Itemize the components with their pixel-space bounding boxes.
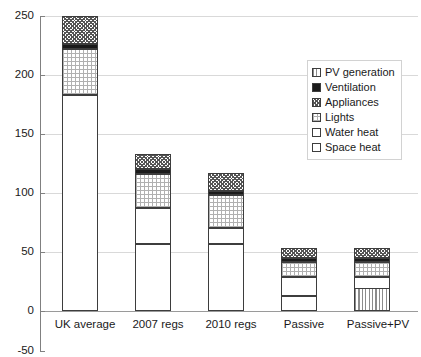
stacked-bar-chart: 250 200 150 100 50 0 -50 bbox=[0, 0, 421, 357]
y-axis-label-100: 100 bbox=[0, 187, 34, 199]
bar-2010-regs[interactable] bbox=[208, 16, 244, 352]
legend-item-water-heat[interactable]: Water heat bbox=[312, 125, 395, 140]
bar-uk-average[interactable] bbox=[62, 16, 98, 352]
legend-item-ventilation[interactable]: Ventilation bbox=[312, 80, 395, 95]
segment-pv-generation[interactable] bbox=[354, 288, 390, 311]
legend-swatch-lights-icon bbox=[312, 113, 321, 122]
segment-appliances[interactable] bbox=[62, 16, 98, 44]
segment-water-heat[interactable] bbox=[281, 277, 317, 296]
legend-label-lights: Lights bbox=[325, 112, 354, 123]
legend-label-pv-generation: PV generation bbox=[325, 67, 395, 78]
legend-swatch-water-heat-icon bbox=[312, 128, 321, 137]
segment-lights[interactable] bbox=[135, 174, 171, 208]
y-axis-label-0: 0 bbox=[0, 305, 34, 317]
segment-water-heat[interactable] bbox=[208, 228, 244, 244]
x-axis-label-passive-pv: Passive+PV bbox=[336, 318, 420, 330]
segment-lights[interactable] bbox=[354, 262, 390, 277]
x-axis-label-2010-regs: 2010 regs bbox=[190, 318, 272, 330]
legend-swatch-appliances-icon bbox=[312, 98, 321, 107]
y-axis-line bbox=[40, 16, 41, 352]
segment-space-heat[interactable] bbox=[135, 244, 171, 311]
segment-lights[interactable] bbox=[208, 195, 244, 228]
y-axis-label-250: 250 bbox=[0, 10, 34, 22]
chart-legend: PV generation Ventilation Appliances Lig… bbox=[307, 60, 402, 160]
segment-appliances[interactable] bbox=[208, 173, 244, 191]
segment-lights[interactable] bbox=[281, 262, 317, 277]
segment-space-heat[interactable] bbox=[281, 296, 317, 311]
legend-item-pv-generation[interactable]: PV generation bbox=[312, 65, 395, 80]
segment-appliances[interactable] bbox=[135, 154, 171, 169]
x-axis-label-uk-average: UK average bbox=[44, 318, 126, 330]
legend-item-lights[interactable]: Lights bbox=[312, 110, 395, 125]
segment-space-heat[interactable] bbox=[208, 244, 244, 311]
legend-swatch-ventilation-icon bbox=[312, 83, 321, 92]
segment-space-heat[interactable] bbox=[62, 95, 98, 311]
bar-2007-regs[interactable] bbox=[135, 16, 171, 352]
legend-item-appliances[interactable]: Appliances bbox=[312, 95, 395, 110]
segment-appliances[interactable] bbox=[354, 248, 390, 258]
legend-label-ventilation: Ventilation bbox=[325, 82, 376, 93]
y-axis-label-150: 150 bbox=[0, 128, 34, 140]
legend-swatch-pv-generation-icon bbox=[312, 68, 321, 77]
y-axis-label-50: 50 bbox=[0, 246, 34, 258]
segment-lights[interactable] bbox=[62, 49, 98, 95]
legend-label-space-heat: Space heat bbox=[325, 142, 381, 153]
legend-item-space-heat[interactable]: Space heat bbox=[312, 140, 395, 155]
legend-label-water-heat: Water heat bbox=[325, 127, 378, 138]
legend-label-appliances: Appliances bbox=[325, 97, 379, 108]
segment-appliances[interactable] bbox=[281, 248, 317, 258]
y-axis-label-200: 200 bbox=[0, 69, 34, 81]
legend-swatch-space-heat-icon bbox=[312, 143, 321, 152]
x-axis-label-2007-regs: 2007 regs bbox=[117, 318, 199, 330]
y-axis-label-neg50: -50 bbox=[0, 345, 34, 357]
x-axis-label-passive: Passive bbox=[263, 318, 345, 330]
segment-water-heat[interactable] bbox=[135, 208, 171, 244]
